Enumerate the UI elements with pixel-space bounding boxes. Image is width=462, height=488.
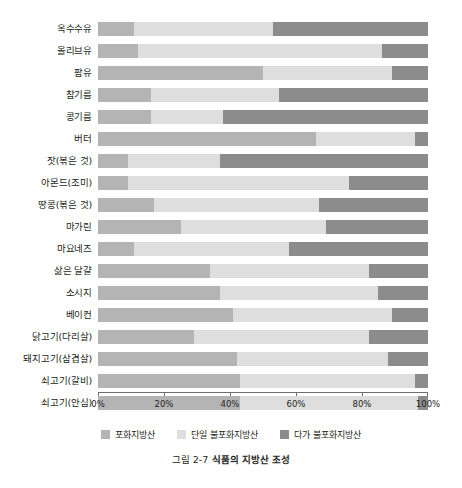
category-label: 팜유: [0, 62, 92, 84]
legend-item-sat: 포화지방산: [101, 428, 155, 441]
bar-segment-monounsaturated: [128, 176, 349, 190]
bar-segment-polyunsaturated: [223, 110, 428, 124]
bar-segment-monounsaturated: [240, 374, 415, 388]
bar-segment-monounsaturated: [138, 44, 382, 58]
bar-segment-saturated: [98, 22, 134, 36]
chart-row: 아몬드(조미): [0, 172, 462, 194]
category-label: 참기름: [0, 84, 92, 106]
chart-row: 옥수수유: [0, 18, 462, 40]
bar-segment-saturated: [98, 374, 240, 388]
stacked-bar: [98, 88, 428, 102]
axis-tick: [164, 392, 165, 396]
bar-segment-polyunsaturated: [378, 286, 428, 300]
bar-segment-polyunsaturated: [392, 66, 428, 80]
axis-tick: [362, 392, 363, 396]
bar-segment-saturated: [98, 264, 210, 278]
bar-segment-monounsaturated: [220, 286, 378, 300]
bar-segment-monounsaturated: [134, 242, 289, 256]
category-label: 삶은 달걀: [0, 260, 92, 282]
category-label: 옥수수유: [0, 18, 92, 40]
bar-segment-saturated: [98, 286, 220, 300]
bar-segment-saturated: [98, 242, 134, 256]
chart-row: 마가린: [0, 216, 462, 238]
bar-segment-saturated: [98, 88, 151, 102]
chart-row: 돼지고기(삼겹살): [0, 348, 462, 370]
legend-label: 단일 불포화지방산: [191, 428, 258, 441]
legend-swatch-icon: [177, 430, 186, 439]
legend-label: 다가 불포화지방산: [294, 428, 361, 441]
bar-segment-polyunsaturated: [369, 264, 428, 278]
stacked-bar: [98, 374, 428, 388]
bar-segment-polyunsaturated: [326, 220, 428, 234]
chart-row: 콩기름: [0, 106, 462, 128]
axis-tick-label: 80%: [353, 399, 372, 409]
chart-row: 베이컨: [0, 304, 462, 326]
legend-item-poly: 다가 불포화지방산: [280, 428, 361, 441]
bar-segment-saturated: [98, 154, 128, 168]
bar-segment-saturated: [98, 352, 237, 366]
bar-segment-monounsaturated: [237, 352, 389, 366]
legend-label: 포화지방산: [115, 428, 155, 441]
axis-tick: [296, 392, 297, 396]
bar-segment-monounsaturated: [194, 330, 369, 344]
bar-segment-saturated: [98, 132, 316, 146]
category-label: 잣(볶은 것): [0, 150, 92, 172]
caption-title: 식품의 지방산 조성: [212, 454, 291, 465]
chart-row: 올리브유: [0, 40, 462, 62]
stacked-bar: [98, 132, 428, 146]
category-label: 베이컨: [0, 304, 92, 326]
bar-segment-saturated: [98, 44, 138, 58]
bar-segment-monounsaturated: [263, 66, 392, 80]
category-label: 땅콩(볶은 것): [0, 194, 92, 216]
bar-segment-monounsaturated: [181, 220, 326, 234]
chart-row: 버터: [0, 128, 462, 150]
axis-tick: [427, 392, 428, 396]
axis-tick-label: 60%: [287, 399, 306, 409]
bar-segment-monounsaturated: [151, 110, 224, 124]
bar-segment-saturated: [98, 110, 151, 124]
chart-row: 삶은 달걀: [0, 260, 462, 282]
stacked-bar: [98, 176, 428, 190]
legend-item-mono: 단일 불포화지방산: [177, 428, 258, 441]
chart-row: 참기름: [0, 84, 462, 106]
axis-tick: [230, 392, 231, 396]
stacked-bar: [98, 22, 428, 36]
bar-segment-monounsaturated: [154, 198, 319, 212]
bar-segment-saturated: [98, 66, 263, 80]
axis-tick-label: 20%: [155, 399, 174, 409]
bar-segment-monounsaturated: [233, 308, 391, 322]
category-label: 마요네즈: [0, 238, 92, 260]
bar-segment-polyunsaturated: [273, 22, 428, 36]
chart-row: 닭고기(다리살): [0, 326, 462, 348]
legend-swatch-icon: [280, 430, 289, 439]
bar-segment-monounsaturated: [316, 132, 415, 146]
legend-swatch-icon: [101, 430, 110, 439]
stacked-bar: [98, 308, 428, 322]
stacked-bar: [98, 286, 428, 300]
bar-segment-monounsaturated: [151, 88, 280, 102]
chart-row: 팜유: [0, 62, 462, 84]
stacked-bar: [98, 242, 428, 256]
category-label: 소시지: [0, 282, 92, 304]
stacked-bar: [98, 220, 428, 234]
stacked-bar: [98, 330, 428, 344]
stacked-bar: [98, 154, 428, 168]
figure-container: 옥수수유올리브유팜유참기름콩기름버터잣(볶은 것)아몬드(조미)땅콩(볶은 것)…: [0, 0, 462, 488]
bar-segment-monounsaturated: [128, 154, 220, 168]
chart-row: 땅콩(볶은 것): [0, 194, 462, 216]
category-label: 쇠고기(갈비): [0, 370, 92, 392]
stacked-bar: [98, 44, 428, 58]
bar-segment-polyunsaturated: [369, 330, 428, 344]
category-label: 버터: [0, 128, 92, 150]
bar-segment-polyunsaturated: [388, 352, 428, 366]
stacked-bar: [98, 198, 428, 212]
bar-segment-polyunsaturated: [415, 132, 428, 146]
bar-segment-saturated: [98, 176, 128, 190]
bar-segment-polyunsaturated: [349, 176, 428, 190]
axis-tick-label: 0%: [91, 399, 105, 409]
bar-segment-polyunsaturated: [220, 154, 428, 168]
axis-tick: [98, 392, 99, 396]
bar-segment-saturated: [98, 220, 181, 234]
category-label: 닭고기(다리살): [0, 326, 92, 348]
category-label: 올리브유: [0, 40, 92, 62]
